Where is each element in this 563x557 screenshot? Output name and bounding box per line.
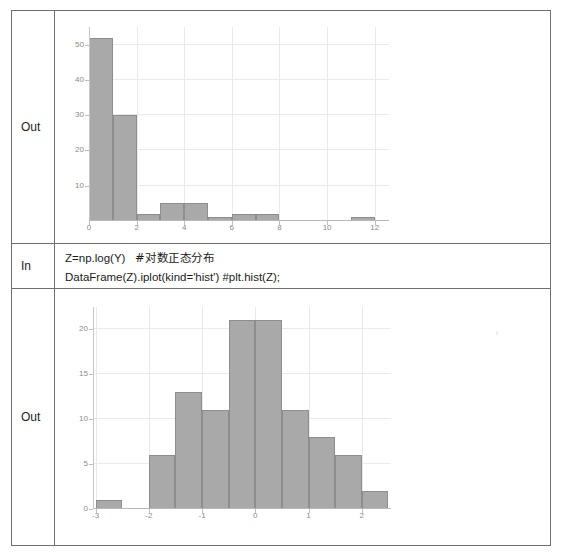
y-axis-tick [89,419,93,420]
histogram-bar [229,320,256,509]
x-axis-tick [149,509,150,513]
gridline-vertical [96,307,97,509]
page-speck: ı [496,329,498,336]
y-axis-tick [85,80,89,81]
plot-area [89,27,389,221]
y-axis-tick-label: 10 [75,181,84,190]
x-axis-tick [279,221,280,225]
y-axis-tick [89,374,93,375]
y-axis-tick-label: 20 [75,145,84,154]
y-axis-tick [85,186,89,187]
y-axis-tick [89,329,93,330]
y-axis-tick-label: 40 [75,75,84,84]
notebook-row-in: In Z=np.log(Y) #对数正态分布 DataFrame(Z).iplo… [12,243,550,289]
y-axis-tick-label: 10 [79,414,88,423]
x-axis-tick [309,509,310,513]
histogram-bar [175,392,202,509]
gridline-vertical [137,27,138,221]
plot-area [93,307,391,509]
code-block[interactable]: Z=np.log(Y) #对数正态分布 DataFrame(Z).iplot(k… [55,244,550,287]
y-axis-tick [85,45,89,46]
y-axis-tick-label: 20 [79,324,88,333]
gridline-horizontal [89,44,389,45]
gridline-vertical [184,27,185,221]
histogram-chart-z: 05101520-3-2-1012 [63,297,403,529]
x-axis-tick [96,509,97,513]
histogram-bar [149,455,176,509]
y-axis-tick-label: 30 [75,110,84,119]
x-axis-line [89,220,389,221]
y-axis-tick-label: 5 [84,459,88,468]
y-axis-tick [89,509,93,510]
histogram-bar [309,437,336,509]
code-line-2: DataFrame(Z).iplot(kind='hist') #plt.his… [65,268,550,287]
y-axis-tick [89,464,93,465]
x-axis-tick [202,509,203,513]
x-axis-tick [137,221,138,225]
output-cell-2: 05101520-3-2-1012 ı [55,289,550,545]
x-axis-tick [89,221,90,225]
x-axis-tick [375,221,376,225]
gridline-vertical [362,307,363,509]
histogram-bar [282,410,309,509]
y-axis-tick [85,150,89,151]
histogram-bar [335,455,362,509]
y-axis-tick-label: 50 [75,40,84,49]
histogram-bar [89,38,113,221]
cell-label-out-1: Out [12,11,55,243]
x-axis-tick [184,221,185,225]
gridline-vertical [279,27,280,221]
code-line-1: Z=np.log(Y) #对数正态分布 [65,249,550,268]
histogram-chart-y: 1020304050024681012 [61,19,401,239]
notebook-table: Out 1020304050024681012 In Z=np.log(Y) #… [11,10,551,546]
cell-label-out-2: Out [12,289,55,545]
histogram-bar [202,410,229,509]
input-cell[interactable]: Z=np.log(Y) #对数正态分布 DataFrame(Z).iplot(k… [55,244,550,288]
y-axis-tick [85,115,89,116]
histogram-bar [113,115,137,221]
gridline-vertical [375,27,376,221]
x-axis-tick [327,221,328,225]
x-axis-tick [362,509,363,513]
cell-label-in: In [12,244,55,288]
code-statement-1: Z=np.log(Y) [65,252,125,264]
x-axis-line [93,508,391,509]
y-axis-line [93,307,94,509]
gridline-vertical [232,27,233,221]
y-axis-line [89,27,90,221]
notebook-row-out-2: Out 05101520-3-2-1012 ı [12,289,550,545]
x-axis-tick [232,221,233,225]
histogram-bar [255,320,282,509]
output-cell-1: 1020304050024681012 [55,11,550,243]
notebook-row-out-1: Out 1020304050024681012 [12,11,550,243]
y-axis-tick-label: 15 [79,369,88,378]
histogram-bar [184,203,208,221]
code-comment-1: #对数正态分布 [135,251,214,265]
histogram-bar [160,203,184,221]
gridline-horizontal [89,79,389,80]
gridline-vertical [327,27,328,221]
histogram-bar [362,491,389,509]
x-axis-tick [255,509,256,513]
